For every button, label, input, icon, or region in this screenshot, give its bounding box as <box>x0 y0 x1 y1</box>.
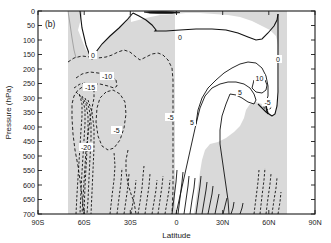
x-tick-label: 90N <box>308 218 321 227</box>
contour-label: -5 <box>264 99 270 106</box>
y-tick-label: 0 <box>31 7 35 16</box>
y-tick-label: 550 <box>23 166 35 175</box>
contour-label: -20 <box>81 144 91 151</box>
contour-label: -10 <box>102 73 112 80</box>
contour-label: -5 <box>113 127 119 134</box>
x-tick-label: 30N <box>216 218 229 227</box>
x-axis-tick-labels: 90S 60S 30S 0 30N 60N 90N <box>32 218 322 227</box>
contour-label: 0 <box>178 34 182 41</box>
y-tick-label: 500 <box>23 152 35 161</box>
y-axis-title: Pressure (hPa) <box>4 85 13 139</box>
y-axis-tick-labels: 0 50 100 150 200 250 300 350 400 450 500… <box>23 7 35 219</box>
x-tick-label: 0 <box>175 218 179 227</box>
y-tick-label: 300 <box>23 94 35 103</box>
y-tick-label: 100 <box>23 36 35 45</box>
y-tick-label: 200 <box>23 65 35 74</box>
y-tick-label: 50 <box>27 21 35 30</box>
x-axis-title: Latitude <box>162 231 191 240</box>
contour-label: 5 <box>238 89 242 96</box>
significance-shading <box>68 11 287 214</box>
contour-label: 0 <box>276 56 280 63</box>
figure-container: 0 50 100 150 200 250 300 350 400 450 500… <box>0 0 331 243</box>
y-tick-label: 250 <box>23 79 35 88</box>
y-tick-label: 150 <box>23 50 35 59</box>
y-tick-label: 400 <box>23 123 35 132</box>
contour-label: -5 <box>167 114 173 121</box>
x-tick-label: 30S <box>124 218 137 227</box>
contour-label: 5 <box>190 119 194 126</box>
panel-label: (b) <box>45 19 56 29</box>
y-tick-label: 350 <box>23 108 35 117</box>
contour-label: 10 <box>256 75 264 82</box>
contour-plot: 0 50 100 150 200 250 300 350 400 450 500… <box>0 0 331 243</box>
contour-label: 0 <box>91 52 95 59</box>
y-tick-label: 650 <box>23 195 35 204</box>
contour-label: -15 <box>85 84 95 91</box>
x-tick-label: 90S <box>32 218 45 227</box>
y-tick-label: 600 <box>23 181 35 190</box>
x-tick-label: 60N <box>262 218 275 227</box>
x-tick-label: 60S <box>78 218 91 227</box>
y-tick-label: 450 <box>23 137 35 146</box>
